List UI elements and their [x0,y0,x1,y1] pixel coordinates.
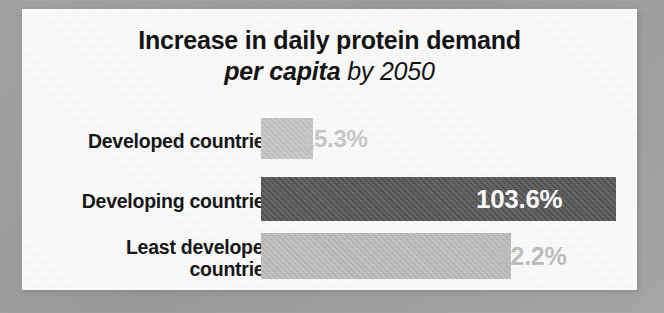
bar-category-label: Developing countries [82,191,284,213]
bar-texture [261,177,616,221]
bar-row: Developing countries103.6% [22,177,637,221]
bar-row: Developed countries15.3% [22,118,637,159]
bar-value-label: 15.3% [301,125,368,153]
bar-category-label-line: Least developed [126,237,275,259]
chart-card: Increase in daily protein demand per cap… [22,9,637,290]
bar-category-label: Developed countries [88,131,284,153]
bar-value-label: 62.2% [497,242,566,271]
bar-3 [261,233,511,279]
bar-category-label-line: countries [126,259,275,281]
bar-value-label: 103.6% [476,184,562,215]
bar-category-label-line: Developing countries [82,191,275,213]
bar-category-label-line: Developed countries [88,131,275,153]
bar-chart-plot: Developed countries15.3%Developing count… [22,9,637,290]
bar-row: Least developedcountries62.2% [22,233,637,279]
scan-border: Increase in daily protein demand per cap… [0,0,664,313]
bar-texture [261,233,511,279]
bar-2 [261,177,616,221]
